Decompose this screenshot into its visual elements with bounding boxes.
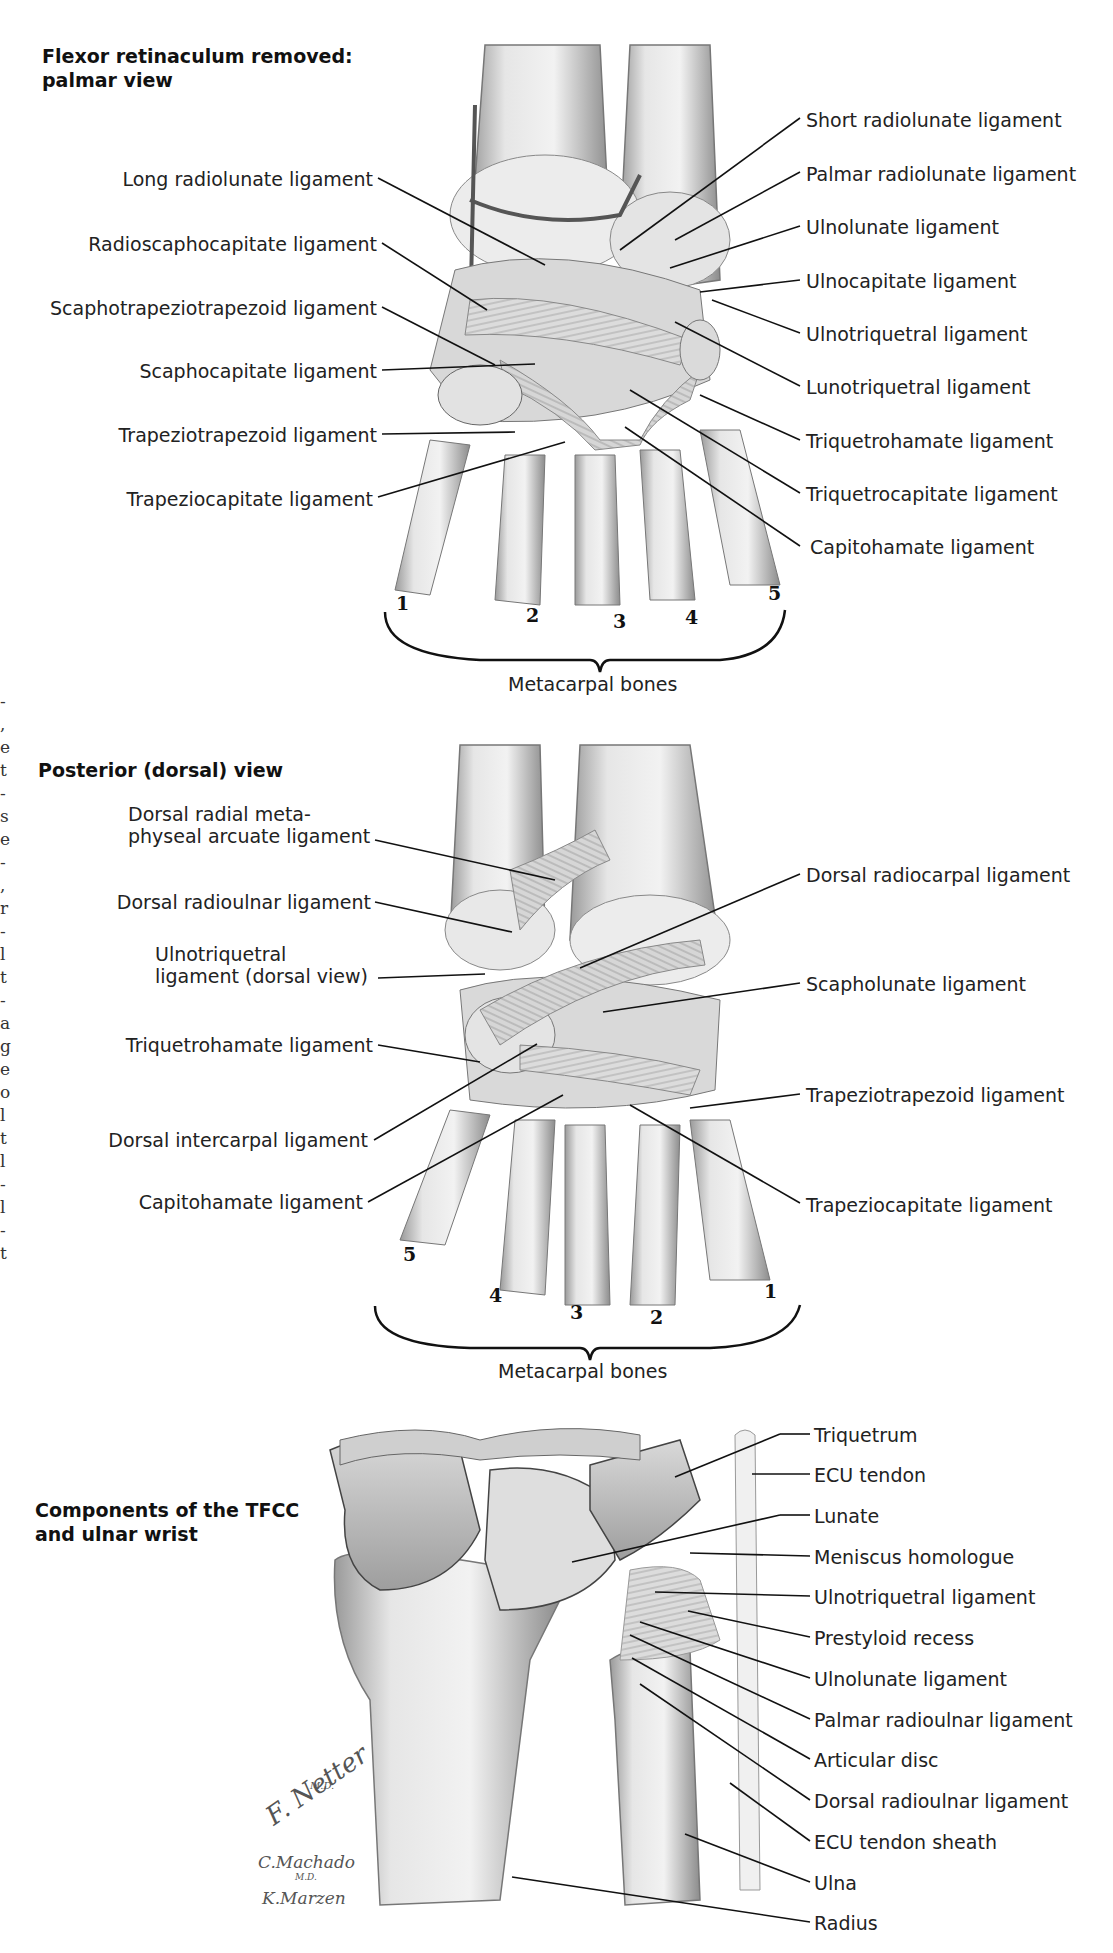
label-palmar-radioulnar-ligament: Palmar radioulnar ligament xyxy=(814,1709,1073,1731)
tfcc-illustration xyxy=(0,0,1113,1953)
label-articular-disc: Articular disc xyxy=(814,1749,938,1771)
label-ulnotriquetral-ligament-tfcc: Ulnotriquetral ligament xyxy=(814,1586,1035,1608)
signature-machado: C.Machado xyxy=(258,1852,355,1872)
label-ecu-tendon: ECU tendon xyxy=(814,1464,926,1486)
label-triquetrum: Triquetrum xyxy=(814,1424,918,1446)
label-dorsal-radioulnar-ligament-tfcc: Dorsal radioulnar ligament xyxy=(814,1790,1068,1812)
label-meniscus-homologue: Meniscus homologue xyxy=(814,1546,1014,1568)
label-lunate: Lunate xyxy=(814,1505,879,1527)
label-ulna: Ulna xyxy=(814,1872,857,1894)
label-ecu-tendon-sheath: ECU tendon sheath xyxy=(814,1831,997,1853)
label-prestyloid-recess: Prestyloid recess xyxy=(814,1627,974,1649)
label-ulnolunate-ligament-tfcc: Ulnolunate ligament xyxy=(814,1668,1007,1690)
signature-machado-suffix: M.D. xyxy=(295,1872,317,1882)
signature-netter-suffix: M.D. xyxy=(310,1780,334,1791)
label-radius: Radius xyxy=(814,1912,878,1934)
signature-marzen: K.Marzen xyxy=(262,1888,346,1908)
